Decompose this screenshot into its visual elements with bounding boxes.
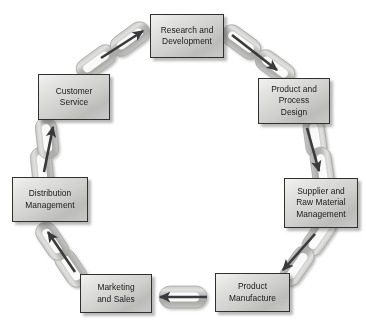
node-product-manufacture[interactable]: Product Manufacture (215, 273, 290, 312)
chain-link-group (29, 18, 340, 308)
node-product-and-process-design[interactable]: Product and Process Design (258, 78, 330, 124)
node-label: Product and Process Design (268, 84, 320, 118)
cycle-diagram-canvas: Research and Development Product and Pro… (0, 0, 366, 328)
node-research-and-development[interactable]: Research and Development (150, 14, 224, 58)
node-label: Product Manufacture (226, 281, 279, 303)
node-label: Research and Development (158, 25, 217, 47)
node-label: Customer Service (53, 86, 96, 108)
node-label: Marketing and Sales (94, 282, 138, 304)
node-label: Supplier and Raw Material Management (293, 186, 348, 220)
node-marketing-and-sales[interactable]: Marketing and Sales (80, 274, 152, 313)
node-supplier-and-raw-material-management[interactable]: Supplier and Raw Material Management (284, 178, 358, 228)
node-customer-service[interactable]: Customer Service (38, 74, 110, 120)
node-distribution-management[interactable]: Distribution Management (12, 177, 88, 222)
node-label: Distribution Management (22, 188, 77, 210)
